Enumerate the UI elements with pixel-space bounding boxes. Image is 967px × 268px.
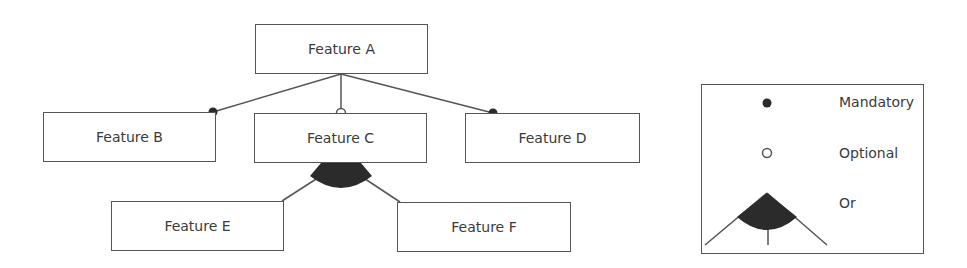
feature-f-node: Feature F: [397, 202, 571, 252]
legend-optional-label: Optional: [839, 145, 898, 161]
edge-a-b: [213, 74, 341, 112]
feature-d-label: Feature D: [518, 130, 586, 146]
feature-c-label: Feature C: [307, 130, 374, 146]
feature-b-label: Feature B: [96, 129, 163, 145]
legend-mandatory-label: Mandatory: [839, 94, 914, 110]
feature-d-node: Feature D: [465, 113, 640, 163]
feature-f-label: Feature F: [451, 219, 516, 235]
feature-a-label: Feature A: [308, 41, 375, 57]
feature-e-label: Feature E: [164, 218, 230, 234]
legend-or-label: Or: [839, 195, 856, 211]
feature-b-node: Feature B: [43, 112, 216, 162]
edge-a-d: [341, 74, 493, 113]
or-group-arc: [310, 163, 372, 188]
feature-a-node: Feature A: [255, 24, 428, 74]
feature-c-node: Feature C: [254, 113, 427, 163]
feature-e-node: Feature E: [111, 201, 284, 251]
